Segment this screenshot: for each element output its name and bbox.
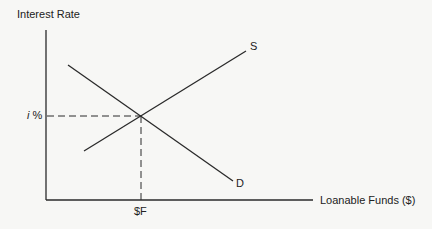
equilibrium-rate-label: i % bbox=[27, 109, 42, 121]
supply-curve bbox=[84, 51, 246, 151]
x-axis-label: Loanable Funds ($) bbox=[320, 194, 415, 206]
demand-label: D bbox=[236, 177, 244, 189]
demand-curve bbox=[68, 65, 233, 181]
equilibrium-funds-label: $F bbox=[134, 205, 147, 217]
supply-label: S bbox=[250, 40, 257, 52]
equilibrium-rate-percent: % bbox=[29, 109, 42, 121]
y-axis-label: Interest Rate bbox=[17, 8, 80, 20]
